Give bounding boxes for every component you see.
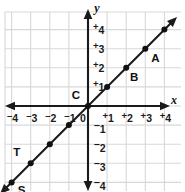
coordinate-graph-figure: –4–3–2–1+1+2+3+4+4+3+2+1–1–2–3–40 STCBA … xyxy=(0,0,185,192)
x-axis-label: x xyxy=(170,93,177,107)
graph-canvas: –4–3–2–1+1+2+3+4+4+3+2+1–1–2–3–40 STCBA … xyxy=(0,0,185,192)
point-label-c: C xyxy=(72,89,80,101)
data-point xyxy=(66,122,72,128)
data-point xyxy=(47,141,53,147)
data-point xyxy=(104,84,110,90)
point-label-t: T xyxy=(13,146,20,158)
point-label-a: A xyxy=(151,52,159,64)
y-axis-label: y xyxy=(92,1,100,15)
point-label-b: B xyxy=(130,71,138,83)
origin-tick-label: 0 xyxy=(80,112,86,124)
data-point xyxy=(161,27,167,33)
point-label-s: S xyxy=(18,184,26,192)
